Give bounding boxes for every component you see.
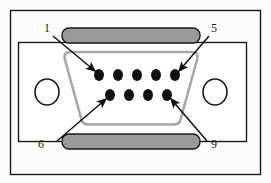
pin-dot <box>113 69 123 81</box>
db9-connector-illustration: 1 5 6 9 <box>0 0 271 183</box>
bottom-shield-bar <box>62 134 200 149</box>
db9-connector-diagram: 1 5 6 9 <box>0 0 271 183</box>
pin-label-5: 5 <box>211 21 217 35</box>
pin-dot <box>162 89 172 101</box>
pin-label-9: 9 <box>211 137 217 151</box>
pin-dot <box>132 69 142 81</box>
pin-dot <box>170 69 180 81</box>
pin-dot <box>94 69 104 81</box>
top-shield-bar <box>62 28 200 43</box>
pin-dot <box>151 69 161 81</box>
pin-dot <box>143 89 153 101</box>
pin-dot <box>124 89 134 101</box>
pin-label-6: 6 <box>38 137 44 151</box>
pin-label-1: 1 <box>44 21 50 35</box>
pin-dot <box>105 89 115 101</box>
